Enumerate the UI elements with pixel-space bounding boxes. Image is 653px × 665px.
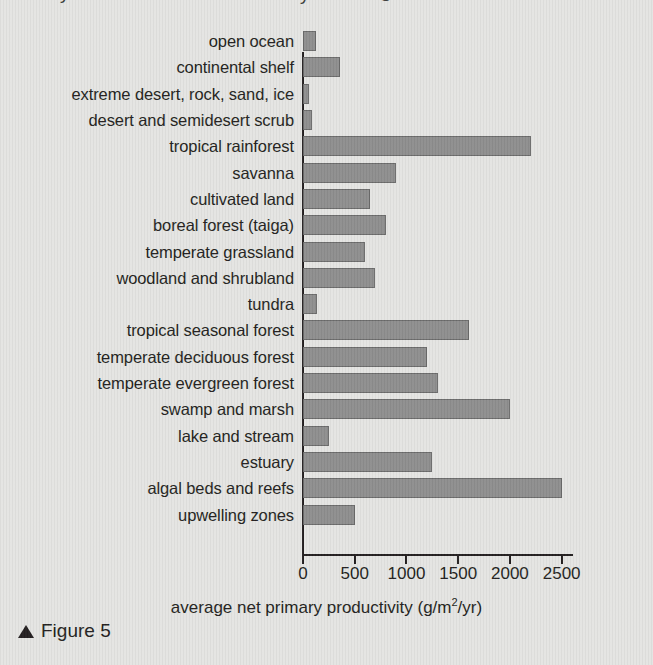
x-axis-tick-label: 1500 [439, 564, 477, 584]
bar [303, 399, 510, 419]
bar-row: tundra [0, 291, 653, 317]
bar [303, 110, 312, 130]
bar-row: temperate evergreen forest [0, 370, 653, 396]
category-label: tundra [248, 296, 294, 313]
bar-row: algal beds and reefs [0, 475, 653, 501]
x-axis-tick [354, 556, 356, 564]
category-label: temperate evergreen forest [98, 375, 294, 392]
bar-row: boreal forest (taiga) [0, 212, 653, 238]
bar-row: tropical rainforest [0, 133, 653, 159]
category-label: temperate grassland [145, 243, 294, 260]
bar [303, 373, 438, 393]
bar-row: open ocean [0, 28, 653, 54]
bar [303, 268, 375, 288]
category-label: algal beds and reefs [147, 480, 294, 497]
bar [303, 452, 432, 472]
x-axis-tick [561, 556, 563, 564]
category-label: tropical seasonal forest [127, 322, 294, 339]
category-label: tropical rainforest [169, 138, 294, 155]
bar [303, 478, 562, 498]
category-label: estuary [241, 454, 294, 471]
category-label: upwelling zones [178, 506, 294, 523]
bar-row: temperate grassland [0, 238, 653, 264]
bar-row: upwelling zones [0, 501, 653, 527]
bar [303, 31, 316, 51]
x-axis-tick-label: 2000 [491, 564, 529, 584]
x-axis-title: average net primary productivity (g/m2/y… [0, 596, 653, 618]
bar [303, 294, 317, 314]
x-axis-tick-label: 500 [341, 564, 369, 584]
x-axis-tick [302, 556, 304, 564]
bar [303, 189, 370, 209]
bar [303, 320, 469, 340]
x-axis-title-suffix: /yr) [458, 598, 483, 617]
figure-caption-text: Figure 5 [41, 620, 111, 642]
x-axis-tick-label: 2500 [543, 564, 581, 584]
category-label: swamp and marsh [161, 401, 294, 418]
bar [303, 136, 531, 156]
bar [303, 84, 309, 104]
bar [303, 215, 386, 235]
category-label: desert and semidesert scrub [89, 112, 294, 129]
bar-chart-plot-area: open oceancontinental shelfextreme deser… [0, 26, 653, 531]
x-axis-tick-label: 0 [298, 564, 307, 584]
title-fragment-mid: y [300, 0, 310, 5]
figure-caption: Figure 5 [18, 620, 111, 642]
category-label: boreal forest (taiga) [153, 217, 294, 234]
bar [303, 163, 396, 183]
bar [303, 57, 340, 77]
category-label: lake and stream [178, 427, 294, 444]
x-axis-tick [405, 556, 407, 564]
category-label: temperate deciduous forest [97, 348, 294, 365]
bar-row: desert and semidesert scrub [0, 107, 653, 133]
cropped-title-remnant: y y g [0, 0, 653, 16]
category-label: continental shelf [176, 59, 294, 76]
title-fragment-right: g [380, 0, 392, 2]
bar-row: extreme desert, rock, sand, ice [0, 81, 653, 107]
title-fragment-left: y [60, 0, 70, 4]
category-label: extreme desert, rock, sand, ice [72, 85, 295, 102]
bar-row: cultivated land [0, 186, 653, 212]
triangle-up-icon [18, 625, 34, 638]
x-axis-line [303, 554, 573, 556]
bar-row: temperate deciduous forest [0, 344, 653, 370]
category-label: cultivated land [190, 191, 294, 208]
x-axis-tick-label: 1000 [388, 564, 426, 584]
category-label: open ocean [209, 33, 294, 50]
bar-row: swamp and marsh [0, 396, 653, 422]
bar [303, 505, 355, 525]
bar-row: tropical seasonal forest [0, 317, 653, 343]
bar [303, 426, 329, 446]
bar-row: savanna [0, 160, 653, 186]
x-axis-tick [457, 556, 459, 564]
category-label: savanna [232, 164, 294, 181]
figure-container: y y g open oceancontinental shelfextreme… [0, 0, 653, 665]
bar-row: woodland and shrubland [0, 265, 653, 291]
bar-row: lake and stream [0, 423, 653, 449]
category-label: woodland and shrubland [116, 270, 294, 287]
bar [303, 242, 365, 262]
bar-row: continental shelf [0, 54, 653, 80]
x-axis-title-prefix: average net primary productivity (g/m [171, 598, 452, 617]
bar [303, 347, 427, 367]
bar-row: estuary [0, 449, 653, 475]
x-axis-tick [509, 556, 511, 564]
